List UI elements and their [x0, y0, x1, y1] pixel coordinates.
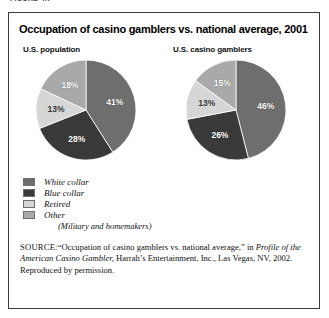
legend-swatch-white-collar	[23, 178, 35, 186]
legend-item-other: Other	[23, 210, 319, 221]
legend-label-retired: Retired	[44, 199, 70, 209]
pie-chart-us-casino-gamblers: 46%26%13%15%	[185, 59, 287, 161]
source-kicker: SOURCE:	[20, 242, 58, 252]
legend-sublabel-other: (Military and homemakers)	[58, 221, 319, 231]
figure-number-caption: FIGURE 4.7	[10, 0, 51, 2]
source-title-part1: Profile	[256, 242, 280, 252]
source-text-a: “Occupation of casino gamblers vs. natio…	[58, 242, 256, 252]
legend: White collar Blue collar Retired Other (…	[23, 177, 319, 231]
pie-panel-us-casino-gamblers: U.S. casino gamblers 46%26%13%15%	[169, 45, 314, 161]
legend-item-blue-collar: Blue collar	[23, 188, 319, 199]
figure-container: Occupation of casino gamblers vs. nation…	[8, 12, 320, 309]
pie-title-us-population: U.S. population	[23, 45, 164, 54]
legend-swatch-retired	[23, 200, 35, 208]
legend-label-other: Other	[44, 210, 65, 220]
pie-panel-us-population: U.S. population 41%28%13%18%	[19, 45, 164, 161]
pie-chart-us-population: 41%28%13%18%	[35, 59, 137, 161]
legend-item-retired: Retired	[23, 199, 319, 210]
pie-title-us-casino-gamblers: U.S. casino gamblers	[173, 45, 314, 54]
pie-svg	[185, 59, 287, 161]
title-band: Occupation of casino gamblers vs. nation…	[9, 22, 319, 36]
legend-label-white-collar: White collar	[44, 177, 89, 187]
pie-svg	[35, 59, 137, 161]
page-title: Occupation of casino gamblers vs. nation…	[19, 22, 309, 36]
source-text-b: Harrah’s Entertainment, Inc.,	[114, 253, 216, 263]
legend-swatch-other	[23, 211, 35, 219]
source-note: SOURCE:“Occupation of casino gamblers vs…	[20, 242, 308, 276]
pie-panels: U.S. population 41%28%13%18% U.S. casino…	[9, 45, 319, 173]
legend-swatch-blue-collar	[23, 189, 35, 197]
legend-item-white-collar: White collar	[23, 177, 319, 188]
legend-label-blue-collar: Blue collar	[44, 188, 84, 198]
